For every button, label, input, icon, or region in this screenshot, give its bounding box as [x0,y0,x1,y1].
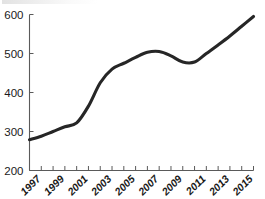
line-chart: 200300400500600 199719992001200320052007… [0,0,265,199]
y-tick-label: 500 [4,48,23,60]
y-tick-label: 400 [4,87,23,99]
x-tick-label: 1999 [41,172,66,197]
y-tick-label: 200 [4,165,23,177]
x-tick-label: 2013 [206,172,232,198]
x-tick-label: 2011 [183,172,208,197]
series-line-1 [30,16,254,139]
x-tick-label: 2009 [158,172,184,198]
x-tick-label: 2007 [135,172,162,199]
x-tick-label: 2003 [88,172,114,198]
y-tick-label: 600 [4,9,23,21]
x-tick-label: 2005 [111,172,137,198]
x-axis: 1997199920012003200520072009201120132015 [18,166,255,198]
x-tick-label: 2015 [229,172,255,198]
data-series-group [30,16,254,139]
x-tick-label: 2001 [64,172,90,198]
y-axis: 200300400500600 [4,9,33,177]
y-tick-label: 300 [4,126,23,138]
chart-canvas: 200300400500600 199719992001200320052007… [0,0,265,199]
